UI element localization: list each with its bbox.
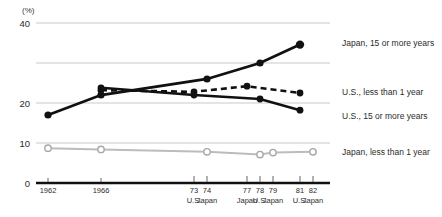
x-axis-ticks [48, 176, 313, 182]
legend-label-us-15-or-more-years: U.S., 15 or more years [342, 111, 428, 121]
x-sublabel-74-country: Japan [191, 196, 223, 205]
x-tick-label-82: 82 [302, 186, 324, 195]
series-japan-less-than-1-year [45, 145, 316, 158]
x-sublabel-82-country: Japan [297, 196, 329, 205]
legend-label-japan-less-than-1-year: Japan, less than 1 year [342, 147, 430, 157]
legend-label-japan-15-or-more-years: Japan, 15 or more years [342, 38, 434, 48]
series-japan-15-or-more-years [44, 40, 304, 118]
x-tick-label-79: 79 [262, 186, 284, 195]
chart-plot-area [0, 0, 442, 217]
x-tick-label-1966: 1966 [87, 186, 115, 195]
x-tick-label-1962: 1962 [34, 186, 62, 195]
x-tick-label-74: 74 [196, 186, 218, 195]
chart-container: (%) 40 20 10 0 [0, 0, 442, 217]
legend-label-us-less-than-1-year: U.S., less than 1 year [342, 87, 423, 97]
